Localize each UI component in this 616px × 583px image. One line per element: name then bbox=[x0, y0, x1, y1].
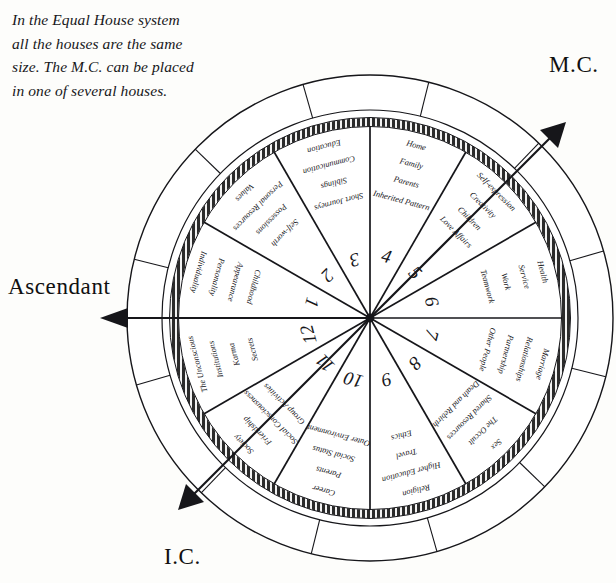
mc-label: M.C. bbox=[549, 52, 599, 78]
ascendant-label: Ascendant bbox=[8, 274, 110, 300]
wheel-center-hub bbox=[366, 314, 375, 323]
ascendant-arrow-head bbox=[100, 308, 128, 328]
ic-label: I.C. bbox=[164, 544, 201, 570]
